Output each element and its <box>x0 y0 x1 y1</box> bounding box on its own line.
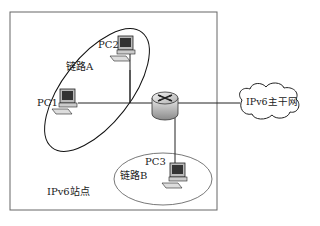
pc2-label: PC2 <box>98 40 119 50</box>
link-a-ellipse <box>25 12 168 169</box>
pc1-label: PC1 <box>37 98 58 108</box>
site-label: IPv6站点 <box>47 187 90 197</box>
link-b-label: 链路B <box>120 171 147 181</box>
pc3-label: PC3 <box>145 157 166 167</box>
link-a-label: 链路A <box>66 62 93 72</box>
router-icon <box>152 92 178 120</box>
pc3-computer-icon <box>162 163 187 188</box>
backbone-label: IPv6主干网 <box>246 97 298 107</box>
